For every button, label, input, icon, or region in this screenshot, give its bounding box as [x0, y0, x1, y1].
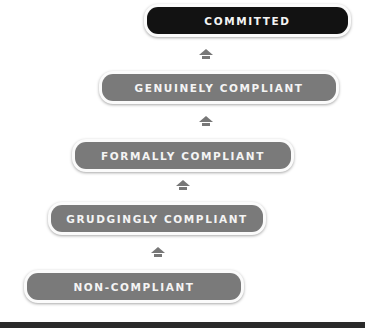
up-arrow-icon [199, 49, 213, 59]
level-label: GRUDGINGLY COMPLIANT [51, 205, 263, 232]
level-genuinely-compliant: GENUINELY COMPLIANT [99, 71, 339, 104]
up-arrow-icon [151, 247, 165, 257]
up-arrow-icon [176, 180, 190, 190]
level-label: COMMITTED [147, 7, 348, 34]
level-label: FORMALLY COMPLIANT [75, 142, 291, 169]
level-grudgingly-compliant: GRUDGINGLY COMPLIANT [48, 202, 266, 235]
up-arrow-icon [199, 116, 213, 126]
level-label: NON-COMPLIANT [27, 273, 241, 300]
bottom-divider-bar [0, 322, 365, 328]
level-formally-compliant: FORMALLY COMPLIANT [72, 139, 294, 172]
level-non-compliant: NON-COMPLIANT [24, 270, 244, 303]
level-label: GENUINELY COMPLIANT [102, 74, 336, 101]
level-committed: COMMITTED [144, 4, 351, 37]
